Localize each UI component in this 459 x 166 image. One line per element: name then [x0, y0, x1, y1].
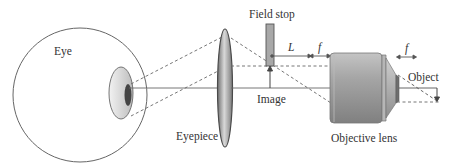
eye [13, 28, 147, 162]
image-arrow [268, 66, 273, 88]
field-stop-label: Field stop [249, 9, 295, 21]
image-label: Image [257, 94, 286, 106]
pupil [125, 84, 132, 106]
L-label: L [288, 42, 294, 54]
f-object-label: f [405, 43, 408, 55]
eyepiece-lens [218, 29, 233, 147]
f-tube-label: f [318, 42, 321, 54]
object-label: Object [408, 72, 439, 84]
objective-lens-label: Objective lens [331, 133, 397, 145]
microscope-diagram: Eye Eyepiece Field stop Image Objective … [0, 0, 459, 166]
eyepiece-label: Eyepiece [176, 131, 218, 143]
eye-label: Eye [54, 46, 72, 58]
field-stop [266, 24, 274, 66]
objective-lens [330, 53, 399, 123]
dimension-L-f [271, 54, 331, 58]
dimension-f-object [397, 55, 417, 59]
